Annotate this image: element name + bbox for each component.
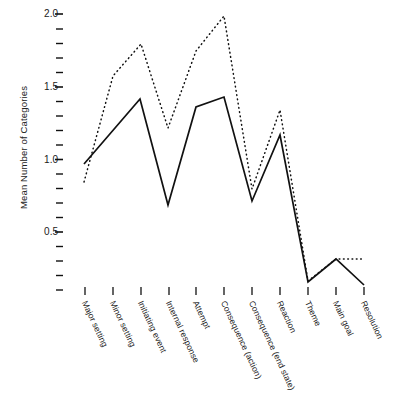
chart-plot xyxy=(0,0,393,405)
series-solid xyxy=(84,97,364,285)
series-dotted xyxy=(84,16,364,281)
x-axis-ticks xyxy=(85,287,364,295)
chart-root: Mean Number of Categories 2.0 1.5 1.0 0.… xyxy=(0,0,393,405)
y-axis-ticks xyxy=(55,14,63,290)
